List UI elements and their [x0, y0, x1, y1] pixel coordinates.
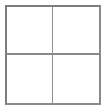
grid-cell-bottom-left[interactable] — [7, 55, 53, 103]
two-by-two-grid — [5, 5, 101, 105]
grid-cell-bottom-right[interactable] — [53, 55, 99, 103]
grid-cell-top-right[interactable] — [53, 7, 99, 55]
grid-cell-top-left[interactable] — [7, 7, 53, 55]
